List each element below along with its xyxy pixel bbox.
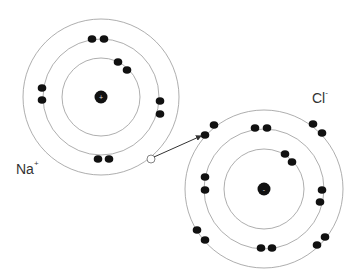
electron [201,236,210,244]
electron [193,226,202,234]
na-symbol: Na [16,161,34,177]
electron [94,155,103,163]
electron [210,121,219,129]
electron [316,198,325,206]
electron [309,120,318,128]
electron [100,35,109,43]
ionic-bond-diagram: +- [0,0,356,277]
electron [156,97,165,105]
electron [201,173,210,181]
electron [288,158,297,166]
electron [38,96,47,104]
transferred-electron-vacancy [147,155,155,163]
electron [123,66,132,74]
cl-symbol: Cl [312,90,325,106]
electron [156,110,165,118]
electron [318,129,327,137]
electron [257,244,266,252]
electron [114,58,123,66]
electron [251,124,260,132]
cl-charge: - [325,88,328,97]
sodium-atom: + [23,19,179,175]
electron [318,186,327,194]
electron [105,155,114,163]
sodium-ion-label: Na+ [16,161,39,177]
electron [201,186,210,194]
electron [281,150,290,158]
sodium-nucleus-sign: + [99,94,103,101]
electron [201,131,210,139]
electron [38,84,47,92]
electron [88,35,97,43]
electron [321,233,330,241]
na-charge: + [34,159,39,168]
chloride-ion-label: Cl- [312,90,328,106]
electron [268,244,277,252]
electron [263,124,272,132]
electron [313,241,322,249]
chlorine-atom: - [185,110,343,268]
